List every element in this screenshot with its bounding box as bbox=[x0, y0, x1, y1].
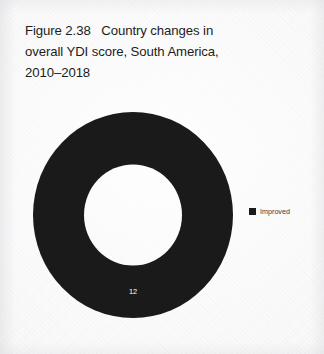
square-swatch-icon bbox=[249, 208, 256, 215]
legend-item-improved[interactable]: Improved bbox=[249, 207, 290, 216]
legend-item-label: Improved bbox=[260, 207, 290, 216]
donut-slice-value-label: 12 bbox=[129, 287, 137, 296]
figure-container: Figure 2.38 Country changes in overall Y… bbox=[0, 0, 324, 354]
figure-title-line-3: 2010–2018 bbox=[25, 62, 307, 83]
donut-svg: 12 bbox=[33, 112, 233, 318]
figure-title: Figure 2.38 Country changes in overall Y… bbox=[25, 20, 307, 83]
donut-plot-area: 12 bbox=[33, 112, 233, 318]
chart-legend: Improved bbox=[249, 207, 290, 216]
figure-title-line-1: Figure 2.38 Country changes in bbox=[25, 20, 307, 41]
figure-title-line-2: overall YDI score, South America, bbox=[25, 41, 307, 62]
